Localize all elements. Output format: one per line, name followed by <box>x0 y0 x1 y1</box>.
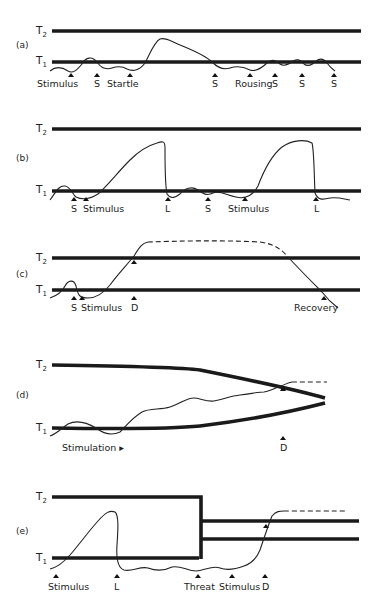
threshold-label-t1: T1 <box>35 551 47 566</box>
marker-triangle <box>331 73 337 77</box>
marker-label: D <box>262 581 269 592</box>
marker-triangle <box>212 73 218 77</box>
marker-label: Stimulus <box>228 203 269 214</box>
threshold-line-t2 <box>52 365 325 398</box>
marker-label: S <box>272 78 278 89</box>
threshold-label-t1: T1 <box>35 421 47 436</box>
panel-label-e: (e) <box>16 526 29 536</box>
marker-triangle <box>229 574 235 578</box>
threshold-label-t1: T1 <box>35 283 47 298</box>
marker-label: Stimulation ▸ <box>62 442 124 453</box>
marker-label: S <box>94 78 100 89</box>
panel-e: (e) T2 T1 Stimulus L Threat Stimulus D <box>16 490 359 592</box>
marker-triangle <box>131 260 137 264</box>
marker-label: Stimulus <box>219 581 260 592</box>
marker-triangle <box>165 197 171 201</box>
marker-label: Stimulus <box>37 78 78 89</box>
threshold-label-t1: T1 <box>35 183 47 198</box>
threshold-label-t1: T1 <box>35 54 47 69</box>
marker-triangle <box>127 73 133 77</box>
panel-label-c: (c) <box>16 269 28 279</box>
panel-label-b: (b) <box>16 153 29 163</box>
marker-label: Stimulus <box>48 581 89 592</box>
panel-b: (b) T2 T1 S Stimulus L S Stimulus L <box>16 122 361 214</box>
marker-label: L <box>314 203 320 214</box>
marker-triangle <box>299 73 305 77</box>
panel-label-a: (a) <box>16 40 29 50</box>
marker-label: S <box>212 78 218 89</box>
threshold-line-t1 <box>52 403 325 429</box>
marker-triangle <box>280 436 286 440</box>
marker-triangle <box>71 296 77 300</box>
marker-label: L <box>114 581 120 592</box>
arousal-trace-dashed <box>148 241 288 257</box>
marker-label: S <box>71 302 77 313</box>
threshold-label-t2: T2 <box>35 490 47 505</box>
marker-label: S <box>331 78 337 89</box>
arousal-trace <box>50 39 335 72</box>
marker-triangle <box>262 574 268 578</box>
marker-triangle <box>94 73 100 77</box>
marker-triangle <box>247 73 253 77</box>
panel-d: (d) T2 T1 Stimulation ▸ D <box>16 358 327 453</box>
marker-label: Stimulus <box>83 203 124 214</box>
marker-triangle <box>195 574 201 578</box>
marker-label: D <box>131 302 138 313</box>
marker-triangle <box>205 197 211 201</box>
marker-triangle <box>272 73 278 77</box>
panel-a: (a) T2 T1 Stimulus S Startle S Rousing S… <box>16 24 361 89</box>
threshold-label-t2: T2 <box>35 24 47 39</box>
marker-label: D <box>280 442 287 453</box>
marker-triangle <box>114 574 120 578</box>
threshold-label-t2: T2 <box>35 358 47 373</box>
marker-label: S <box>205 203 211 214</box>
marker-label: S <box>299 78 305 89</box>
marker-label: L <box>165 203 171 214</box>
arousal-trace <box>288 257 338 308</box>
marker-label: Stimulus <box>81 302 122 313</box>
marker-label: Rousing <box>235 78 273 89</box>
marker-triangle <box>131 296 137 300</box>
marker-label: Threat <box>183 581 215 592</box>
threshold-diagram: (a) T2 T1 Stimulus S Startle S Rousing S… <box>0 0 378 603</box>
marker-triangle <box>53 574 59 578</box>
marker-label: S <box>71 203 77 214</box>
panel-label-d: (d) <box>16 390 29 400</box>
marker-triangle <box>68 73 74 77</box>
marker-label: Startle <box>107 78 139 89</box>
marker-label: Recovery <box>294 302 338 313</box>
threshold-label-t2: T2 <box>35 122 47 137</box>
threshold-label-t2: T2 <box>35 251 47 266</box>
panel-c: (c) T2 T1 S Stimulus D Recovery <box>16 241 360 313</box>
